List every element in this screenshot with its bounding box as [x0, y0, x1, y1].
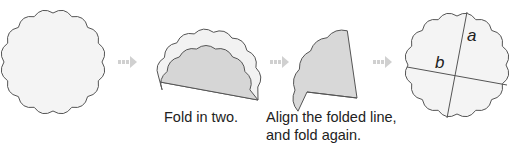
creased-circle-icon: [405, 12, 508, 118]
arrow-right-icon: [373, 56, 392, 68]
caption-align-line2: and fold again.: [266, 126, 361, 144]
arrow-right-icon: [118, 56, 137, 68]
label-a: a: [467, 26, 476, 46]
half-folded-paper-icon: [157, 29, 261, 100]
scalloped-circle-icon: [1, 10, 104, 113]
caption-fold-in-two: Fold in two.: [164, 108, 238, 126]
quarter-folded-paper-icon: [293, 30, 357, 111]
folding-diagram: a b Fold in two. Align the folded line, …: [0, 0, 515, 144]
label-b: b: [435, 53, 444, 73]
arrow-right-icon: [270, 56, 289, 68]
caption-align-line1: Align the folded line,: [266, 108, 397, 126]
